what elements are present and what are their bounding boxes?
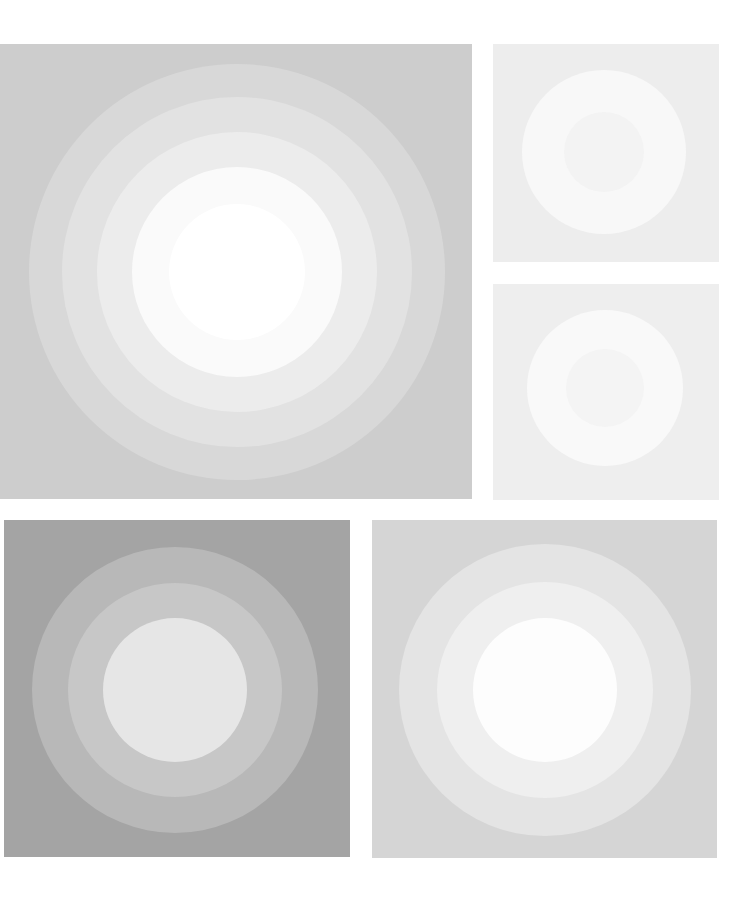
panel-light-bottom-right [372, 520, 717, 858]
circle-ring-5 [169, 204, 305, 340]
circle-ring-3 [103, 618, 247, 762]
circle-ring-2 [566, 349, 644, 427]
circle-ring-3 [473, 618, 617, 762]
panel-large-top-left [0, 44, 472, 499]
panel-small-middle-right [493, 284, 719, 500]
panel-dark-bottom-left [4, 520, 350, 857]
panel-small-top-right [493, 44, 719, 262]
circle-ring-2 [564, 112, 644, 192]
